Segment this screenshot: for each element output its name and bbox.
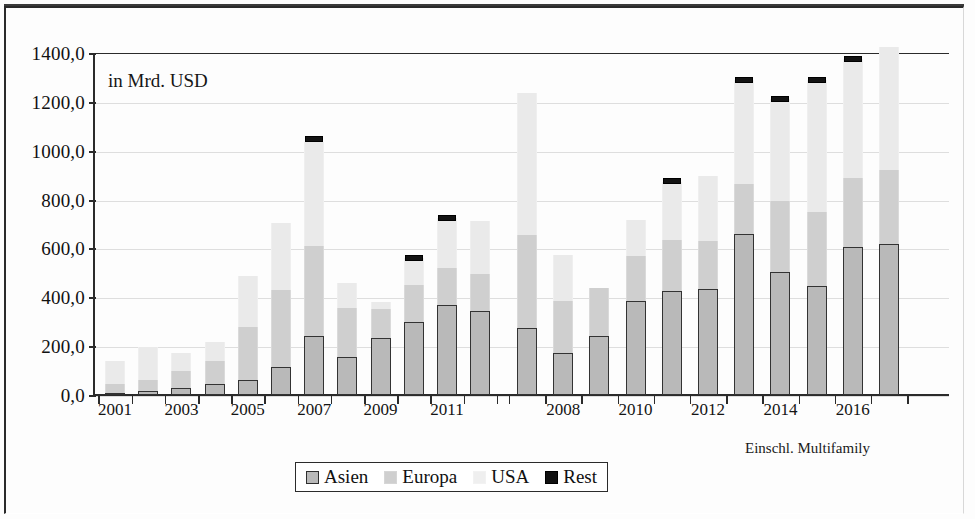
- bar-segment-usa: [470, 221, 490, 274]
- bar-segment-usa: [304, 142, 324, 246]
- y-axis-label: 1200,0: [32, 92, 85, 114]
- bar-segment-rest: [438, 215, 456, 221]
- bar-segment-usa: [404, 258, 424, 285]
- y-axis-label: 400,0: [41, 287, 85, 309]
- bar-segment-asien: [171, 388, 191, 395]
- x-axis-label: 2003: [164, 400, 198, 420]
- x-axis-tick: [132, 396, 134, 404]
- bar-segment-europa: [271, 290, 291, 367]
- square-swatch-icon: [473, 471, 486, 484]
- bar-segment-asien: [371, 338, 391, 395]
- bar-segment-asien: [589, 336, 609, 395]
- bar-segment-asien: [517, 328, 537, 395]
- y-axis-tick: [89, 151, 96, 153]
- legend-label: Europa: [402, 466, 457, 488]
- bar-segment-usa: [171, 353, 191, 371]
- bar-segment-asien: [271, 367, 291, 395]
- chart-page: 0,0200,0400,0600,0800,01000,01200,01400,…: [0, 0, 975, 519]
- bar-segment-europa: [304, 246, 324, 336]
- bar-segment-usa: [238, 276, 258, 327]
- bar-segment-europa: [553, 301, 573, 353]
- bar-segment-europa: [470, 274, 490, 312]
- bar-segment-asien: [470, 311, 490, 395]
- bar-segment-europa: [662, 240, 682, 291]
- bar-segment-europa: [205, 361, 225, 384]
- bar-segment-rest: [771, 96, 789, 102]
- x-axis-label: 2012: [691, 400, 725, 420]
- bar-segment-europa: [171, 371, 191, 388]
- legend-label: Asien: [324, 466, 368, 488]
- square-swatch-icon: [545, 471, 558, 484]
- y-axis-tick: [89, 53, 96, 55]
- bar-segment-usa: [662, 182, 682, 239]
- legend-item-rest[interactable]: Rest: [545, 466, 597, 488]
- bar-segment-europa: [371, 309, 391, 338]
- bar-segment-rest: [808, 77, 826, 83]
- y-axis-label: 200,0: [41, 336, 85, 358]
- bar-segment-rest: [844, 56, 862, 62]
- bar-segment-rest: [663, 178, 681, 184]
- bar-segment-usa: [205, 342, 225, 360]
- bar-segment-asien: [404, 322, 424, 395]
- y-axis-label: 1000,0: [32, 141, 85, 163]
- bar-segment-usa: [698, 176, 718, 241]
- x-axis-tick: [509, 396, 511, 404]
- chart-legend: Asien Europa USA Rest: [295, 462, 608, 492]
- bar-segment-usa: [553, 255, 573, 301]
- y-axis-tick: [89, 346, 96, 348]
- bar-segment-europa: [589, 288, 609, 336]
- plot-caption: in Mrd. USD: [108, 70, 208, 92]
- bar-segment-asien: [437, 305, 457, 395]
- bar-segment-europa: [404, 285, 424, 323]
- legend-item-usa[interactable]: USA: [473, 466, 529, 488]
- bar-segment-asien: [626, 301, 646, 395]
- y-axis-label: 0,0: [61, 385, 85, 407]
- square-swatch-icon: [384, 471, 397, 484]
- x-axis-tick: [264, 396, 266, 404]
- x-axis-tick: [871, 396, 873, 404]
- bar-segment-europa: [437, 268, 457, 305]
- bar-segment-asien: [553, 353, 573, 395]
- x-axis-label: 2001: [98, 400, 132, 420]
- bar-segment-europa: [517, 235, 537, 327]
- bar-segment-usa: [879, 47, 899, 169]
- bar-segment-europa: [770, 201, 790, 272]
- x-axis-tick: [497, 396, 499, 404]
- bar-segment-europa: [337, 308, 357, 357]
- x-axis-tick: [397, 396, 399, 404]
- bar-segment-asien: [698, 289, 718, 395]
- bar-segment-europa: [105, 384, 125, 393]
- legend-label: USA: [491, 466, 529, 488]
- x-axis-tick: [799, 396, 801, 404]
- bar-segment-usa: [807, 80, 827, 212]
- x-axis-tick: [198, 396, 200, 404]
- bar-segment-rest: [735, 77, 753, 83]
- bar-segment-europa: [807, 212, 827, 287]
- x-axis-label: 2008: [546, 400, 580, 420]
- legend-item-europa[interactable]: Europa: [384, 466, 457, 488]
- bar-segment-asien: [105, 393, 125, 395]
- x-axis-label: 2007: [297, 400, 331, 420]
- bar-segment-asien: [337, 357, 357, 395]
- bar-segment-usa: [734, 80, 754, 184]
- x-axis-tick: [331, 396, 333, 404]
- bar-segment-usa: [271, 223, 291, 290]
- bar-segment-asien: [843, 247, 863, 395]
- y-axis-label: 600,0: [41, 238, 85, 260]
- bar-segment-usa: [337, 283, 357, 309]
- bar-segment-asien: [734, 234, 754, 395]
- bar-segment-europa: [626, 256, 646, 301]
- x-axis-label: 2011: [430, 400, 463, 420]
- bar-segment-asien: [770, 272, 790, 395]
- bar-segment-europa: [843, 178, 863, 248]
- bar-segment-usa: [105, 361, 125, 384]
- x-axis-tick: [907, 396, 909, 404]
- bar-segment-rest: [405, 255, 423, 261]
- legend-item-asien[interactable]: Asien: [306, 466, 368, 488]
- x-axis-tick: [654, 396, 656, 404]
- bar-segment-usa: [437, 218, 457, 268]
- bar-segment-usa: [517, 93, 537, 236]
- legend-label: Rest: [563, 466, 597, 488]
- bar-segment-europa: [879, 170, 899, 245]
- x-axis-tick: [464, 396, 466, 404]
